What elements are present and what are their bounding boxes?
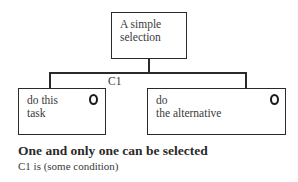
condition-label: C1 — [108, 75, 121, 87]
selection-circle-icon — [270, 94, 279, 105]
caption-subtitle: C1 is (some condition) — [18, 160, 119, 172]
left-branch-connector — [49, 72, 51, 89]
selection-circle-icon — [89, 94, 98, 105]
right-branch-connector — [245, 72, 247, 89]
child-box-1: do this task — [18, 88, 106, 135]
root-box-label: A simple selection — [120, 18, 161, 44]
caption-title: One and only one can be selected — [18, 143, 208, 159]
root-box: A simple selection — [111, 12, 187, 59]
branch-connector-horizontal — [49, 72, 247, 74]
child-box-2: do the alternative — [147, 88, 286, 135]
child-box-1-label: do this task — [27, 94, 58, 120]
child-box-2-label: do the alternative — [156, 94, 221, 120]
